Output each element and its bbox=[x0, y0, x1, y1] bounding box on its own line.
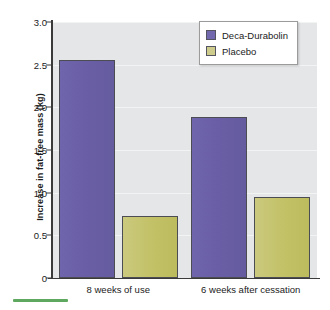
x-axis-line bbox=[48, 278, 320, 280]
y-axis-tick-label: 2.5 bbox=[22, 59, 47, 70]
y-axis-tick-label: 2.0 bbox=[22, 102, 47, 113]
chart-legend: Deca-Durabolin Placebo bbox=[199, 21, 298, 65]
y-axis-tick-labels: 00.51.01.52.02.53.0 bbox=[22, 0, 47, 310]
y-axis-tick-mark bbox=[46, 150, 51, 151]
y-axis-tick-label: 3.0 bbox=[22, 17, 47, 28]
y-axis-tick-mark bbox=[46, 64, 51, 65]
legend-label-deca-durabolin: Deca-Durabolin bbox=[222, 30, 288, 41]
y-axis-tick-mark bbox=[46, 107, 51, 108]
chart-figure: Increase in fat-free mass (kg) 00.51.01.… bbox=[0, 0, 330, 310]
y-axis-tick-label: 1.0 bbox=[22, 187, 47, 198]
legend-swatch-icon-placebo bbox=[206, 46, 216, 56]
bar-placebo-1 bbox=[122, 216, 178, 278]
y-axis-tick-mark bbox=[46, 22, 51, 23]
legend-swatch-icon-deca-durabolin bbox=[206, 30, 216, 40]
bar-placebo-2 bbox=[254, 197, 310, 278]
x-axis-tick-label: 8 weeks of use bbox=[87, 284, 150, 295]
y-axis-tick-mark bbox=[46, 192, 51, 193]
y-axis-line bbox=[51, 20, 53, 279]
y-axis-tick-mark bbox=[46, 235, 51, 236]
legend-label-placebo: Placebo bbox=[222, 46, 256, 57]
legend-item-deca-durabolin: Deca-Durabolin bbox=[206, 27, 288, 43]
y-axis-tick-label: 0 bbox=[22, 273, 47, 284]
y-axis-tick-label: 0.5 bbox=[22, 230, 47, 241]
bar-deca-durabolin-1 bbox=[59, 60, 115, 278]
x-axis-tick-label: 6 weeks after cessation bbox=[201, 284, 300, 295]
legend-item-placebo: Placebo bbox=[206, 43, 288, 59]
accent-rule bbox=[13, 299, 68, 302]
y-axis-tick-label: 1.5 bbox=[22, 145, 47, 156]
bar-deca-durabolin-2 bbox=[191, 117, 247, 278]
y-axis-tick-mark bbox=[46, 278, 51, 279]
